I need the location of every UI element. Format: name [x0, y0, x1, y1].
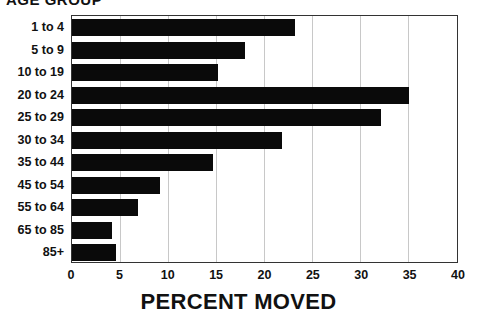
x-tick-label: 35 — [395, 268, 425, 282]
bar — [72, 222, 112, 239]
plot-area — [71, 15, 458, 263]
x-tick-label: 15 — [201, 268, 231, 282]
y-tick-label: 85+ — [0, 245, 64, 259]
y-tick-label: 35 to 44 — [0, 155, 64, 169]
bar-row — [72, 129, 457, 152]
bar — [72, 19, 295, 36]
x-tick-label: 40 — [443, 268, 473, 282]
y-tick-label: 30 to 34 — [0, 133, 64, 147]
bar — [72, 199, 138, 216]
bar-row — [72, 219, 457, 242]
bar-row — [72, 106, 457, 129]
y-tick-label: 25 to 29 — [0, 110, 64, 124]
bar-row — [72, 151, 457, 174]
bar — [72, 109, 381, 126]
bar — [72, 177, 160, 194]
x-tick-label: 20 — [250, 268, 280, 282]
y-tick-label: 65 to 85 — [0, 223, 64, 237]
y-tick-label: 5 to 9 — [0, 43, 64, 57]
bar-row — [72, 84, 457, 107]
bar — [72, 132, 282, 149]
bar-row — [72, 61, 457, 84]
bar-row — [72, 241, 457, 264]
y-tick-label: 20 to 24 — [0, 88, 64, 102]
y-tick-label: 45 to 54 — [0, 178, 64, 192]
x-tick-label: 25 — [298, 268, 328, 282]
x-tick-label: 30 — [346, 268, 376, 282]
x-axis-label: PERCENT MOVED — [0, 289, 477, 315]
x-tick-label: 0 — [56, 268, 86, 282]
y-tick-label: 55 to 64 — [0, 200, 64, 214]
x-tick-label: 10 — [153, 268, 183, 282]
bar-row — [72, 16, 457, 39]
bar — [72, 87, 409, 104]
bar — [72, 244, 116, 261]
x-tick-label: 5 — [104, 268, 134, 282]
bar-row — [72, 196, 457, 219]
bar — [72, 154, 213, 171]
bar-row — [72, 174, 457, 197]
y-tick-label: 10 to 19 — [0, 65, 64, 79]
y-tick-label: 1 to 4 — [0, 20, 64, 34]
bar-row — [72, 39, 457, 62]
bar — [72, 64, 218, 81]
chart-title: AGE GROUP — [6, 0, 102, 8]
bar — [72, 42, 245, 59]
